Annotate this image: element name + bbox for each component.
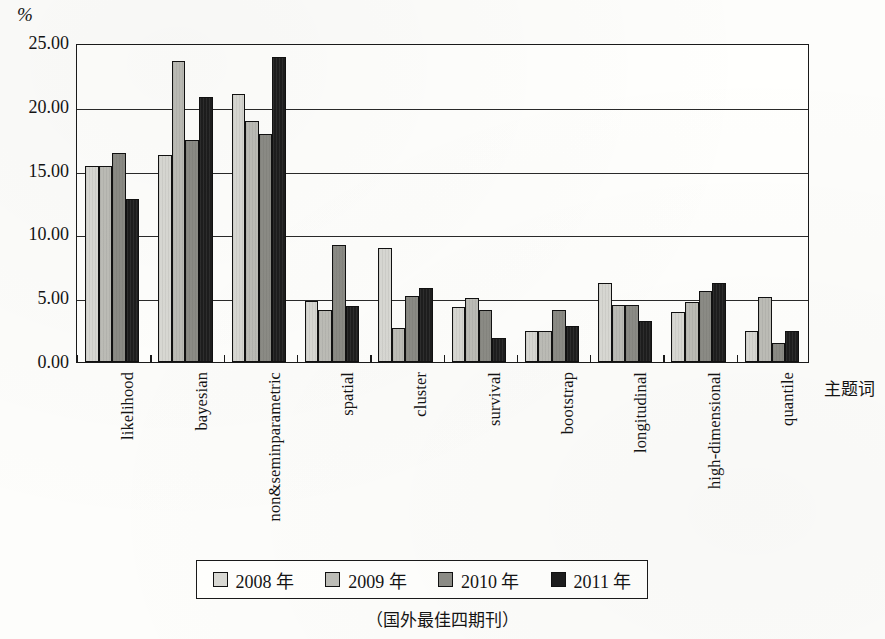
bar — [305, 301, 319, 362]
bar — [112, 153, 126, 362]
x-axis-tick — [150, 355, 151, 362]
bar — [185, 140, 199, 362]
x-axis-category-label: longitudinal — [631, 372, 651, 453]
bar — [758, 297, 772, 362]
y-axis-tick-label: 25.00 — [0, 34, 69, 52]
y-axis-tick-label: 5.00 — [0, 289, 69, 307]
bar-group — [378, 43, 432, 362]
x-axis-tick — [297, 355, 298, 362]
x-axis-tick — [77, 355, 78, 362]
bar — [712, 283, 726, 362]
legend-swatch-2010 — [438, 572, 453, 587]
chart-legend: 2008 年2009 年2010 年2011 年 — [196, 560, 648, 599]
bar — [699, 291, 713, 362]
bar — [745, 331, 759, 362]
bar — [625, 305, 639, 362]
bar — [346, 306, 360, 362]
x-axis-category-label: quantile — [778, 372, 798, 426]
bar — [158, 155, 172, 362]
bars-layer — [77, 45, 808, 362]
y-axis-tick-label: 0.00 — [0, 353, 69, 371]
bar — [452, 307, 466, 362]
x-axis-tick — [444, 355, 445, 362]
x-axis-category-label: non&seminparametric — [265, 372, 285, 521]
legend-item: 2011 年 — [551, 567, 632, 593]
x-axis-category-label: spatial — [338, 372, 358, 416]
bar — [566, 326, 580, 362]
legend-item: 2008 年 — [213, 567, 295, 593]
x-axis-category-label: high-dimensional — [705, 372, 725, 489]
x-axis-tick — [590, 355, 591, 362]
bar — [525, 331, 539, 362]
x-axis-category-label: bayesian — [192, 372, 212, 431]
x-axis-tick — [370, 355, 371, 362]
bar — [685, 302, 699, 362]
x-axis-tick — [663, 355, 664, 362]
bar — [671, 312, 685, 362]
bar — [272, 57, 286, 362]
figure-caption: （国外最佳四期刊） — [0, 606, 885, 631]
y-axis-tick-label: 15.00 — [0, 162, 69, 180]
bar — [392, 328, 406, 362]
legend-item-label: 2009 年 — [348, 567, 407, 593]
bar — [232, 94, 246, 362]
bar — [479, 310, 493, 362]
bar-group — [598, 43, 652, 362]
bar — [378, 248, 392, 362]
bar-group — [745, 43, 799, 362]
bar — [419, 288, 433, 362]
bar — [126, 199, 140, 362]
bar — [598, 283, 612, 362]
bar — [259, 134, 273, 362]
plot-area — [76, 44, 809, 363]
bar — [172, 61, 186, 362]
bar — [772, 343, 786, 362]
legend-swatch-2011 — [551, 572, 566, 587]
bar — [405, 296, 419, 362]
bar-group — [158, 43, 212, 362]
x-axis-tick — [737, 355, 738, 362]
bar — [199, 97, 213, 362]
legend-item: 2010 年 — [438, 567, 520, 593]
bar-group — [232, 43, 286, 362]
bar-group — [525, 43, 579, 362]
bar — [492, 338, 506, 362]
x-axis-category-label: likelihood — [118, 372, 138, 440]
bar-group — [671, 43, 725, 362]
x-axis-title: 主题词 — [824, 375, 875, 400]
legend-item-label: 2011 年 — [574, 567, 632, 593]
bar — [245, 121, 259, 362]
bar — [785, 331, 799, 362]
bar — [639, 321, 653, 362]
y-axis-tick-label: 20.00 — [0, 98, 69, 116]
bar — [99, 166, 113, 363]
bar — [612, 305, 626, 362]
bar-group — [305, 43, 359, 362]
x-axis-category-label: survival — [485, 372, 505, 426]
bar — [538, 331, 552, 362]
x-axis-category-label: cluster — [411, 372, 431, 417]
x-axis-category-label: bootstrap — [558, 372, 578, 434]
legend-item-label: 2008 年 — [236, 567, 295, 593]
y-axis-tick-label: 10.00 — [0, 225, 69, 243]
bar — [465, 298, 479, 362]
legend-swatch-2009 — [325, 572, 340, 587]
bar-group — [452, 43, 506, 362]
x-axis-tick — [517, 355, 518, 362]
bar — [332, 245, 346, 362]
bar — [318, 310, 332, 362]
y-axis-unit-label: % — [17, 4, 33, 26]
legend-item-label: 2010 年 — [461, 567, 520, 593]
legend-item: 2009 年 — [325, 567, 407, 593]
bar — [85, 166, 99, 363]
bar — [552, 310, 566, 362]
x-axis-tick — [224, 355, 225, 362]
legend-swatch-2008 — [213, 572, 228, 587]
bar-group — [85, 43, 139, 362]
